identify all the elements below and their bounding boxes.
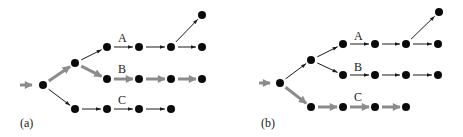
node-mid [71,59,79,67]
branch-label-a: A [354,29,363,43]
edge-arrow [176,19,198,42]
diagram-canvas: ABC(a) ABC(b) [0,0,463,137]
node-B1 [371,71,379,79]
highlighted-edge-arrow [286,87,307,103]
edge-arrow [317,47,337,57]
panel-caption: (a) [20,116,33,130]
branch-label-b: B [354,60,362,74]
highlighted-edge-arrow [81,66,101,76]
node-mid [307,56,315,64]
node-A1 [135,43,143,51]
highlighted-edge-arrow [49,66,70,81]
node-B2 [402,71,410,79]
node-A3 [434,40,442,48]
panel-a: ABC(a) [20,11,206,130]
node-A1 [371,40,379,48]
branch-label-c: C [118,93,126,107]
node-B3 [434,71,442,79]
node-root [39,81,47,89]
edge-arrow [317,63,337,72]
node-root [276,79,284,87]
branch-label-a: A [118,31,127,45]
node-A2 [167,43,175,51]
node-A0 [103,43,111,51]
edge-arrow [49,89,71,105]
node-Atop [435,8,443,16]
branch-label-c: C [354,90,362,104]
node-C0 [71,105,79,113]
node-C3 [402,103,410,111]
edge-arrow [81,50,101,60]
panel-caption: (b) [261,116,275,130]
node-C2 [135,105,143,113]
node-A0 [339,40,347,48]
node-C3 [167,105,175,113]
branch-label-b: B [118,62,126,76]
node-A2 [402,40,410,48]
node-C2 [371,103,379,111]
node-C1 [339,103,347,111]
node-C0 [307,103,315,111]
edge-arrow [286,64,307,79]
node-A3 [198,43,206,51]
node-C1 [103,105,111,113]
node-B2 [167,75,175,83]
node-B3 [198,75,206,83]
node-Atop [198,11,206,19]
panel-b: ABC(b) [259,8,443,130]
edge-arrow [411,16,435,39]
node-B1 [135,75,143,83]
node-B0 [103,75,111,83]
node-B0 [339,71,347,79]
